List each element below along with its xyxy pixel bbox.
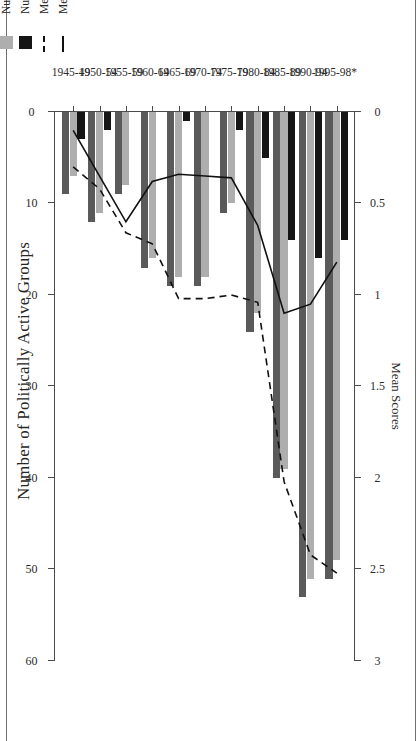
score-axis-title: Mean Scores <box>388 316 404 476</box>
page-rule-right <box>415 0 416 741</box>
legend-swatch-square <box>0 36 13 49</box>
plot-area: 0102030405060 00.511.522.53 1945-491950-… <box>10 21 410 721</box>
legend-label: Number of Groups Using Protest <box>0 0 12 14</box>
legend-swatch-solid-line <box>62 36 64 52</box>
line-series-group <box>10 21 410 721</box>
legend-label: Mean Protest (All Groups) <box>38 0 50 14</box>
legend-swatch-dashed-line <box>43 36 45 52</box>
page-rule-left <box>6 0 7 741</box>
legend-swatch-square <box>19 36 32 49</box>
legend-label: Number of Groups Using Rebellion <box>19 0 31 14</box>
mean-protest-line <box>73 166 337 572</box>
rotated-chart-stage: Number of Politically Active Groups 0102… <box>10 21 410 721</box>
mean-rebellion-line <box>73 130 337 313</box>
legend-label: Mean Rebellion (All Groups) <box>57 0 69 14</box>
figure-page: Number of Politically Active Groups 0102… <box>0 0 419 741</box>
